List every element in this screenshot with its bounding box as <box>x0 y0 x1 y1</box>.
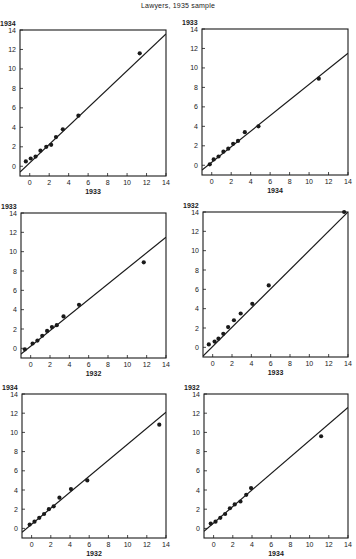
data-point <box>212 157 216 161</box>
x-tick-label: 12 <box>325 360 333 367</box>
y-tick-label: 2 <box>194 142 198 149</box>
y-tick-label: 8 <box>195 267 199 274</box>
data-point <box>221 150 225 154</box>
x-axis-label: 1933 <box>85 188 101 195</box>
y-axis-label: 1934 <box>2 384 18 391</box>
y-tick-label: 12 <box>192 410 200 417</box>
data-point <box>216 337 220 341</box>
plot-frame <box>204 394 348 538</box>
x-tick-label: 2 <box>49 541 53 548</box>
x-tick-label: 6 <box>86 179 90 186</box>
x-tick-label: 0 <box>211 360 215 367</box>
y-tick-label: 10 <box>9 248 17 255</box>
y-tick-label: 10 <box>8 65 16 72</box>
data-point <box>238 499 242 503</box>
y-tick-label: 6 <box>194 103 198 110</box>
y-tick-label: 8 <box>14 448 18 455</box>
x-tick-label: 2 <box>48 361 52 368</box>
data-point <box>61 127 65 131</box>
y-tick-label: 0 <box>14 525 18 532</box>
x-tick-label: 2 <box>231 541 235 548</box>
y-tick-label: 4 <box>194 123 198 130</box>
y-tick-label: 12 <box>190 45 198 52</box>
data-point <box>208 162 212 166</box>
y-tick-label: 6 <box>12 104 16 111</box>
y-axis-label: 1932 <box>184 384 200 391</box>
x-axis-label: 1934 <box>268 550 284 557</box>
x-tick-label: 6 <box>87 361 91 368</box>
x-tick-label: 0 <box>30 541 34 548</box>
y-tick-label: 10 <box>192 429 200 436</box>
y-tick-label: 0 <box>195 344 199 351</box>
data-point <box>218 516 222 520</box>
y-tick-label: 10 <box>10 429 18 436</box>
x-tick-label: 4 <box>249 178 253 185</box>
x-tick-label: 12 <box>325 178 333 185</box>
y-tick-label: 4 <box>196 487 200 494</box>
y-axis-label: 1933 <box>182 19 198 26</box>
y-tick-label: 12 <box>191 228 199 235</box>
x-tick-label: 14 <box>162 361 170 368</box>
y-tick-label: 4 <box>195 305 199 312</box>
data-point <box>31 341 35 345</box>
y-tick-label: 14 <box>10 391 18 398</box>
data-point <box>250 302 254 306</box>
x-tick-label: 10 <box>306 541 314 548</box>
x-tick-label: 12 <box>143 361 151 368</box>
x-tick-label: 14 <box>344 360 352 367</box>
data-point <box>77 303 81 307</box>
data-point <box>233 502 237 506</box>
data-point <box>256 124 260 128</box>
x-tick-label: 0 <box>28 179 32 186</box>
x-tick-label: 12 <box>143 541 151 548</box>
data-point <box>54 135 58 139</box>
data-point <box>213 520 217 524</box>
data-point <box>23 347 27 351</box>
data-point <box>47 507 51 511</box>
x-tick-label: 12 <box>143 179 151 186</box>
x-tick-label: 2 <box>47 179 51 186</box>
x-tick-label: 8 <box>288 178 292 185</box>
x-tick-label: 10 <box>123 179 131 186</box>
y-tick-label: 12 <box>8 46 16 53</box>
y-tick-label: 4 <box>14 487 18 494</box>
y-tick-label: 12 <box>9 229 17 236</box>
y-tick-label: 2 <box>195 325 199 332</box>
y-tick-label: 12 <box>10 410 18 417</box>
x-tick-label: 4 <box>249 360 253 367</box>
data-point <box>37 516 41 520</box>
x-tick-label: 10 <box>305 360 313 367</box>
x-tick-label: 14 <box>344 178 352 185</box>
x-tick-label: 10 <box>124 541 132 548</box>
y-tick-label: 2 <box>14 506 18 513</box>
data-point <box>243 130 247 134</box>
data-point <box>157 423 161 427</box>
data-point <box>342 210 346 214</box>
y-tick-label: 8 <box>196 448 200 455</box>
x-tick-label: 12 <box>325 541 333 548</box>
y-tick-label: 8 <box>13 268 17 275</box>
data-point <box>52 504 56 508</box>
x-tick-label: 0 <box>29 361 33 368</box>
data-point <box>249 486 253 490</box>
data-point <box>42 512 46 516</box>
y-axis-label: 1932 <box>183 202 199 209</box>
x-axis-label: 1932 <box>86 370 102 377</box>
y-tick-label: 14 <box>190 26 198 33</box>
data-point <box>244 493 248 497</box>
data-point <box>45 329 49 333</box>
x-tick-label: 14 <box>162 179 170 186</box>
x-axis-label: 1933 <box>268 369 284 376</box>
x-tick-label: 8 <box>288 541 292 548</box>
x-tick-label: 2 <box>230 360 234 367</box>
data-point <box>231 142 235 146</box>
y-tick-label: 14 <box>191 209 199 216</box>
data-point <box>40 334 44 338</box>
y-tick-label: 0 <box>13 345 17 352</box>
y-tick-label: 10 <box>190 64 198 71</box>
x-tick-label: 4 <box>67 361 71 368</box>
x-tick-label: 14 <box>344 541 352 548</box>
data-point <box>44 145 48 149</box>
data-point <box>209 522 213 526</box>
data-point <box>76 114 80 118</box>
